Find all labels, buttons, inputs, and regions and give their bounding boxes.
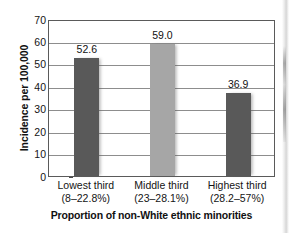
x-axis-tick-label-name: Lowest third [58,179,115,191]
x-axis-tick-label: Highest third(28.2–57%) [195,179,279,205]
bar-chart-figure: Incidence per 100,000 010203040506070 52… [0,0,289,233]
x-axis-tick-label-range: (8–22.8%) [44,192,128,205]
y-axis-tick-label: 60 [25,37,46,48]
bar-group: 52.6 [49,21,125,176]
y-axis-tick-label: 30 [25,104,46,115]
scan-edge-artifact-secondary [283,46,286,142]
bar-value-label: 36.9 [210,78,266,90]
y-axis-tick-label: 50 [25,59,46,70]
bar[interactable] [226,93,251,176]
x-axis-tick-label: Lowest third(8–22.8%) [44,179,128,205]
bar[interactable] [74,58,99,176]
y-axis-tick-label: 10 [25,149,46,160]
x-axis-tick-label-name: Middle third [134,179,188,191]
x-axis-tick-labels: Lowest third(8–22.8%)Middle third(23–28.… [48,179,275,207]
plot-area: 52.659.036.9 [48,20,275,177]
y-axis-tick-label: 40 [25,82,46,93]
x-axis-tick-label-name: Highest third [208,179,267,191]
bar-group: 59.0 [125,21,201,176]
y-axis-tick-label: 70 [25,15,46,26]
bar-value-label: 59.0 [134,29,190,41]
x-axis-tick-label: Middle third(23–28.1%) [120,179,204,205]
bar-group: 36.9 [200,21,276,176]
y-axis-tick-mark [69,177,73,178]
bar[interactable] [150,44,175,176]
x-axis-tick-label-range: (28.2–57%) [195,192,279,205]
y-axis-tick-labels: 010203040506070 [25,14,46,184]
y-axis-tick-label: 0 [25,172,46,183]
x-axis-title: Proportion of non-White ethnic minoritie… [30,209,273,221]
bar-value-label: 52.6 [59,43,115,55]
y-axis-tick-label: 20 [25,127,46,138]
x-axis-tick-label-range: (23–28.1%) [120,192,204,205]
bars-layer: 52.659.036.9 [49,21,274,176]
